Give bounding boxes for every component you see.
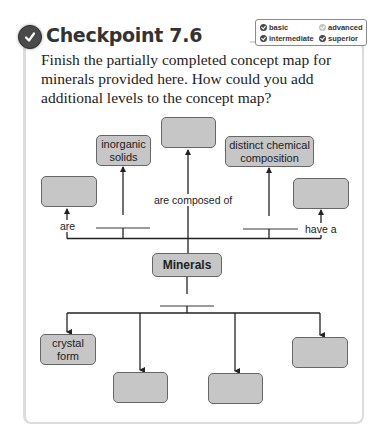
concept-node-empty-lower-2	[113, 372, 168, 403]
concept-node-inorganic-solids: inorganic solids	[96, 135, 151, 166]
concept-node-empty-right	[293, 178, 349, 209]
concept-map-connectors	[0, 0, 380, 437]
concept-node-crystal-form: crystal form	[40, 334, 96, 365]
concept-node-empty-lower-4	[292, 337, 348, 368]
concept-node-empty-lower-3	[208, 373, 263, 404]
link-label-are: are	[60, 220, 75, 232]
concept-node-minerals: Minerals	[152, 253, 222, 277]
link-label-have-a: have a	[305, 223, 337, 235]
concept-node-empty-center	[161, 117, 216, 148]
concept-node-empty-left	[41, 176, 97, 207]
link-label-are-composed-of: are composed of	[153, 194, 233, 206]
concept-node-distinct-chemical-composition: distinct chemical composition	[225, 136, 314, 167]
